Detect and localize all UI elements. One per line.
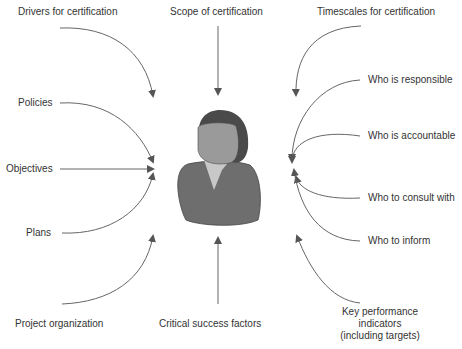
label-kpi: Key performance indicators (including ta… xyxy=(330,306,430,342)
arrow-responsible xyxy=(292,80,360,160)
diagram-canvas xyxy=(0,0,462,349)
arrow-drivers xyxy=(60,28,153,96)
label-objectives: Objectives xyxy=(6,163,53,175)
kpi-line-1: Key performance xyxy=(330,306,430,318)
label-inform: Who to inform xyxy=(368,235,430,247)
arrow-inform xyxy=(294,170,360,241)
label-drivers: Drivers for certification xyxy=(18,6,117,18)
label-responsible: Who is responsible xyxy=(368,74,452,86)
person-icon xyxy=(178,110,261,225)
label-policies: Policies xyxy=(18,97,52,109)
arrow-consult xyxy=(296,177,360,198)
label-consult: Who to consult with xyxy=(368,192,455,204)
label-scope: Scope of certification xyxy=(170,6,263,18)
arrow-accountable xyxy=(292,134,360,162)
arrow-timescales xyxy=(296,26,361,95)
arrow-policies xyxy=(60,103,153,162)
label-timescales: Timescales for certification xyxy=(317,6,435,18)
kpi-line-2: indicators xyxy=(330,318,430,330)
label-project-org: Project organization xyxy=(15,318,103,330)
arrow-plans xyxy=(62,174,153,233)
arrow-kpi xyxy=(297,236,360,303)
label-accountable: Who is accountable xyxy=(368,130,455,142)
arrow-project-org xyxy=(62,236,153,304)
label-csf: Critical success factors xyxy=(159,318,261,330)
label-plans: Plans xyxy=(26,227,51,239)
kpi-line-3: (including targets) xyxy=(330,330,430,342)
